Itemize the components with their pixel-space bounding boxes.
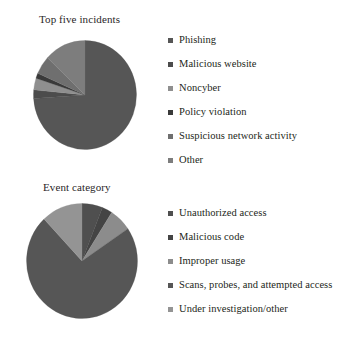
legend-item[interactable]: Policy violation: [168, 105, 297, 129]
legend-swatch-icon: [168, 158, 173, 163]
legend-swatch-icon: [168, 211, 173, 216]
pie-top-svg: [33, 40, 137, 150]
chart-title-bottom: Event category: [43, 181, 111, 194]
legend-top: PhishingMalicious websiteNoncyberPolicy …: [168, 33, 297, 177]
legend-swatch-icon: [168, 307, 173, 312]
legend-swatch-icon: [168, 86, 173, 91]
legend-item-label: Unauthorized access: [179, 206, 267, 220]
legend-swatch-icon: [168, 134, 173, 139]
legend-item-label: Phishing: [179, 33, 216, 47]
legend-swatch-icon: [168, 110, 173, 115]
legend-item[interactable]: Under investigation/other: [168, 302, 332, 326]
pie-chart-top: [33, 40, 137, 150]
pie-bottom-svg: [26, 203, 138, 319]
legend-item[interactable]: Scans, probes, and attempted access: [168, 278, 332, 302]
pie-chart-bottom: [26, 203, 138, 319]
legend-item[interactable]: Phishing: [168, 33, 297, 57]
legend-item[interactable]: Noncyber: [168, 81, 297, 105]
pie-bottom-slice-group: [27, 204, 138, 319]
legend-item-label: Other: [179, 153, 203, 167]
chart-event-category: Event category Unauthorized accessMalici…: [0, 170, 356, 337]
pie-top-slice-group: [34, 41, 137, 150]
legend-item-label: Under investigation/other: [179, 302, 288, 316]
legend-item-label: Scans, probes, and attempted access: [179, 278, 332, 292]
legend-swatch-icon: [168, 235, 173, 240]
legend-item[interactable]: Unauthorized access: [168, 206, 332, 230]
legend-swatch-icon: [168, 38, 173, 43]
legend-swatch-icon: [168, 62, 173, 67]
legend-item[interactable]: Suspicious network activity: [168, 129, 297, 153]
legend-swatch-icon: [168, 259, 173, 264]
legend-item[interactable]: Malicious code: [168, 230, 332, 254]
legend-item-label: Suspicious network activity: [179, 129, 297, 143]
legend-item-label: Malicious website: [179, 57, 257, 71]
chart-top-five-incidents: Top five incidents PhishingMalicious web…: [0, 0, 356, 170]
chart-title-top: Top five incidents: [39, 13, 120, 26]
legend-swatch-icon: [168, 283, 173, 288]
legend-bottom: Unauthorized accessMalicious codeImprope…: [168, 206, 332, 326]
legend-item[interactable]: Improper usage: [168, 254, 332, 278]
legend-item-label: Improper usage: [179, 254, 245, 268]
legend-item-label: Noncyber: [179, 81, 221, 95]
legend-item-label: Malicious code: [179, 230, 244, 244]
legend-item-label: Policy violation: [179, 105, 247, 119]
legend-item[interactable]: Malicious website: [168, 57, 297, 81]
